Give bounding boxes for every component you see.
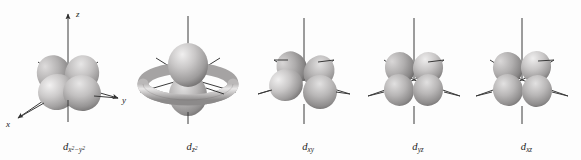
orbital-diagram-d-x2-y2: z y x <box>0 0 140 134</box>
axis-lines-back <box>368 18 460 96</box>
orbital-panel-d-x2-y2: z y x dx2−y2 <box>0 0 140 160</box>
orbital-label-sub-xz: xz <box>526 146 532 154</box>
orbital-label-d-z2: dz2 <box>128 141 254 154</box>
orbital-label-d-xz: dxz <box>468 141 581 154</box>
axis-lines-back <box>476 18 568 96</box>
orbital-label-sup-2b: 2 <box>82 145 85 151</box>
orbital-diagram-d-yz <box>360 0 472 134</box>
axis-label-z: z <box>75 9 80 19</box>
orbital-panel-d-xy: dxy <box>248 0 364 160</box>
orbital-panel-d-yz: dyz <box>360 0 472 160</box>
orbital-diagram-d-xy <box>248 0 364 134</box>
orbital-lobes <box>265 46 343 114</box>
orbital-label-d-yz: dyz <box>360 141 474 154</box>
axis-label-x: x <box>5 119 10 129</box>
orbital-panel-d-xz: dxz <box>468 0 581 160</box>
orbital-diagram-d-xz <box>468 0 581 134</box>
d-orbital-figure: z y x dx2−y2 <box>0 0 581 160</box>
orbital-label-d-xy: dxy <box>248 141 366 154</box>
orbital-label-sub-xy: xy <box>307 146 313 154</box>
axis-label-y: y <box>121 95 126 105</box>
orbital-diagram-d-z2 <box>128 0 252 134</box>
orbital-label-d-x2-y2: dx2−y2 <box>0 141 144 154</box>
orbital-panel-d-z2: dz2 <box>128 0 252 160</box>
orbital-label-sub-yz: yz <box>418 146 424 154</box>
orbital-label-sup-2: 2 <box>195 145 198 151</box>
